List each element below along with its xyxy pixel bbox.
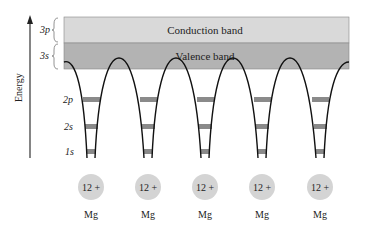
svg-text:Mg: Mg [84,209,98,220]
ion: 12 + Mg [307,174,333,220]
svg-text:12 +: 12 + [139,182,158,193]
svg-text:Mg: Mg [313,209,327,220]
energy-axis: Energy [13,15,33,158]
svg-text:Mg: Mg [141,209,155,220]
conduction-band-label: Conduction band [167,24,243,36]
level-1s-label: 1s [65,146,74,157]
ion: 12 + Mg [78,174,104,220]
energy-axis-label: Energy [13,73,24,102]
level-2s-label: 2s [64,121,73,132]
ion: 12 + Mg [192,174,218,220]
valence-band-label: Valence band [176,50,235,62]
energy-levels [83,97,329,154]
ion: 12 + Mg [249,174,275,220]
orbital-3s-label: 3s [39,50,49,61]
brace-3s [52,44,58,69]
ion: 12 + Mg [135,174,161,220]
svg-text:12 +: 12 + [253,182,272,193]
level-2p-label: 2p [63,94,73,105]
orbital-3p-label: 3p [39,24,50,35]
potential-wells [64,58,349,158]
svg-text:12 +: 12 + [82,182,101,193]
svg-text:12 +: 12 + [311,182,330,193]
band-diagram: Energy Conduction band Valence band 3p 3… [0,0,368,239]
svg-text:12 +: 12 + [196,182,215,193]
svg-text:Mg: Mg [198,209,212,220]
brace-3p [52,18,58,42]
svg-text:Mg: Mg [255,209,269,220]
arrow-up-icon [27,15,33,24]
